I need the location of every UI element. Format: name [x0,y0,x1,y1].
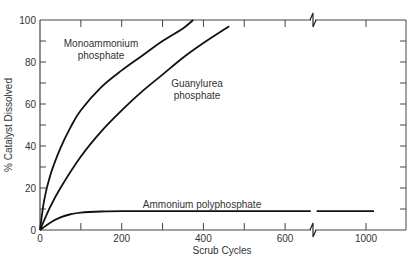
x-tick-label: 200 [113,233,130,244]
y-tick-label: 40 [25,141,37,152]
series-label: Monoammonium [64,38,138,49]
chart: 02040608010002004006001000 Monoammoniump… [0,0,418,265]
y-tick-label: 0 [30,225,36,236]
series-label: phosphate [174,90,221,101]
y-tick-label: 100 [19,15,36,26]
x-tick-label: 1000 [355,233,378,244]
series-labels: MonoammoniumphosphateGuanylureaphosphate… [64,38,262,210]
series-label: phosphate [78,50,125,61]
series-label: Ammonium polyphosphate [143,199,262,210]
y-tick-label: 60 [25,99,37,110]
x-axis-label: Scrub Cycles [193,245,252,256]
y-tick-label: 20 [25,183,37,194]
x-tick-label: 400 [195,233,212,244]
series-label: Guanylurea [171,78,223,89]
x-tick-label: 0 [37,233,43,244]
x-tick-label: 600 [277,233,294,244]
y-tick-label: 80 [25,57,37,68]
y-axis-label: % Catalyst Dissolved [3,78,14,172]
